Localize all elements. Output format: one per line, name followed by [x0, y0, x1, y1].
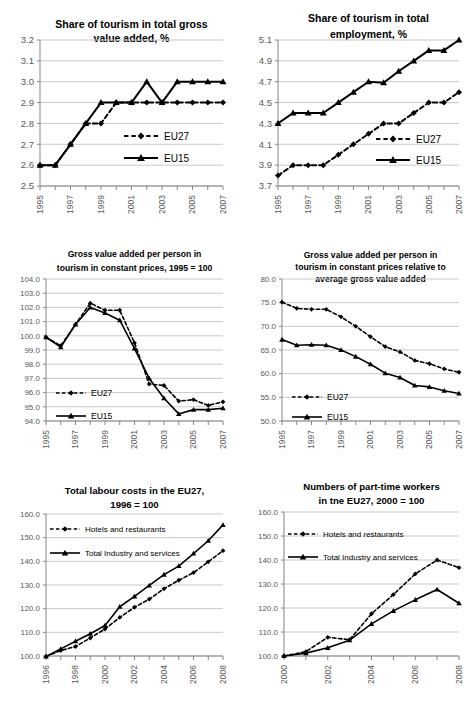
svg-text:4.5: 4.5 [259, 97, 272, 108]
svg-text:2003: 2003 [395, 430, 405, 449]
chart-legend: EU27EU15 [376, 134, 441, 166]
svg-text:2007: 2007 [454, 195, 464, 214]
svg-text:2007: 2007 [218, 430, 228, 449]
svg-text:140.0: 140.0 [258, 556, 279, 565]
svg-text:97.0: 97.0 [24, 374, 40, 383]
svg-text:1995: 1995 [277, 430, 287, 449]
svg-text:2001: 2001 [365, 430, 375, 449]
chart-part-time-workers: Numbers of part-time workersin tne EU27,… [236, 470, 472, 703]
svg-text:70.0: 70.0 [260, 322, 276, 331]
svg-text:160.0: 160.0 [20, 510, 41, 519]
chart-labour-costs: Total labour costs in the EU27,1996 = 10… [0, 470, 236, 703]
svg-text:2006: 2006 [410, 665, 420, 684]
y-axis: 94.095.096.097.098.099.0100.0101.0102.01… [20, 275, 223, 426]
svg-text:Share of tourism in total gros: Share of tourism in total gross [55, 18, 207, 30]
svg-text:2001: 2001 [129, 430, 139, 449]
x-axis: 1995199719992001200320052007 [277, 421, 464, 449]
svg-text:1997: 1997 [65, 195, 75, 214]
svg-text:2000: 2000 [279, 665, 289, 684]
svg-text:98.0: 98.0 [24, 360, 40, 369]
svg-text:2007: 2007 [454, 430, 464, 449]
chart-title: Gross value added per person intourism i… [57, 249, 213, 273]
svg-text:130.0: 130.0 [20, 581, 41, 590]
svg-text:tourism in constant prices rel: tourism in constant prices relative to [295, 262, 445, 272]
svg-text:2002: 2002 [129, 665, 139, 684]
svg-text:95.0: 95.0 [24, 403, 40, 412]
svg-text:3.1: 3.1 [21, 55, 34, 66]
svg-text:2001: 2001 [363, 195, 373, 214]
svg-text:100.0: 100.0 [20, 652, 41, 661]
x-axis: 1996199820002002200420062008 [41, 656, 228, 684]
chart-legend: Hotels and restaurantsTotal Industry and… [288, 530, 418, 562]
svg-text:101.0: 101.0 [20, 317, 41, 326]
chart-panel-share-gva: Share of tourism in total grossvalue add… [0, 0, 236, 235]
legend-label: Total Industry and services [323, 553, 418, 562]
chart-panel-gva-per-person: Gross value added per person intourism i… [0, 235, 236, 470]
svg-text:99.0: 99.0 [24, 346, 40, 355]
svg-text:3.2: 3.2 [21, 34, 34, 45]
chart-legend: EU27EU15 [292, 392, 349, 422]
svg-text:100.0: 100.0 [258, 652, 279, 661]
svg-text:Share of tourism in total: Share of tourism in total [308, 12, 429, 24]
x-axis: 20002002200420062008 [279, 656, 464, 684]
chart-legend: EU27EU15 [124, 131, 189, 164]
svg-text:1995: 1995 [41, 430, 51, 449]
svg-text:130.0: 130.0 [258, 580, 279, 589]
chart-title: Numbers of part-time workersin tne EU27,… [303, 481, 439, 506]
svg-text:150.0: 150.0 [20, 533, 41, 542]
svg-text:1995: 1995 [273, 195, 283, 214]
svg-text:3.9: 3.9 [259, 159, 272, 170]
svg-text:2007: 2007 [218, 195, 228, 214]
figure-grid: Share of tourism in total grossvalue add… [0, 0, 472, 703]
chart-gva-relative: Gross value added per person intourism i… [236, 235, 472, 470]
chart-panel-gva-relative: Gross value added per person intourism i… [236, 235, 472, 470]
svg-text:Gross value added per person i: Gross value added per person in [68, 249, 202, 259]
svg-text:1999: 1999 [333, 195, 343, 214]
legend-label: Hotels and restaurants [85, 525, 166, 534]
svg-text:50.0: 50.0 [260, 417, 276, 426]
svg-text:2002: 2002 [323, 665, 333, 684]
legend-label: EU27 [164, 131, 189, 142]
svg-text:2001: 2001 [126, 195, 136, 214]
svg-text:2008: 2008 [218, 665, 228, 684]
svg-text:4.7: 4.7 [259, 76, 272, 87]
x-axis: 1995199719992001200320052007 [273, 186, 464, 214]
svg-text:110.0: 110.0 [259, 628, 279, 637]
chart-title: Total labour costs in the EU27,1996 = 10… [65, 485, 205, 510]
svg-text:104.0: 104.0 [20, 275, 41, 284]
legend-label: EU15 [327, 412, 349, 422]
svg-text:tourism in constant prices, 19: tourism in constant prices, 1995 = 100 [57, 263, 213, 273]
svg-text:4.9: 4.9 [259, 55, 272, 66]
series-total-industry-and-services [43, 522, 226, 658]
series-total-industry-and-services [281, 587, 462, 658]
svg-text:120.0: 120.0 [20, 604, 41, 613]
svg-text:2005: 2005 [188, 430, 198, 449]
svg-text:2000: 2000 [100, 665, 110, 684]
chart-panel-labour-costs: Total labour costs in the EU27,1996 = 10… [0, 470, 236, 703]
svg-text:120.0: 120.0 [258, 604, 279, 613]
svg-text:Total labour costs in the EU27: Total labour costs in the EU27, [65, 485, 205, 496]
svg-text:5.1: 5.1 [259, 34, 272, 45]
legend-label: Total Industry and services [85, 549, 180, 558]
svg-text:1999: 1999 [336, 430, 346, 449]
svg-text:1999: 1999 [100, 430, 110, 449]
svg-text:Gross value added per person i: Gross value added per person in [304, 250, 438, 260]
y-axis: 2.52.62.72.82.93.03.13.2 [21, 34, 223, 191]
svg-text:2.9: 2.9 [21, 97, 34, 108]
svg-text:2.6: 2.6 [21, 159, 34, 170]
svg-text:96.0: 96.0 [24, 388, 40, 397]
svg-text:2.8: 2.8 [21, 118, 34, 129]
svg-text:2004: 2004 [366, 665, 376, 684]
svg-text:2005: 2005 [187, 195, 197, 214]
chart-gva-per-person: Gross value added per person intourism i… [0, 235, 236, 470]
svg-text:150.0: 150.0 [258, 532, 279, 541]
svg-text:3.0: 3.0 [21, 76, 34, 87]
chart-legend: Hotels and restaurantsTotal Industry and… [50, 525, 180, 558]
chart-panel-part-time-workers: Numbers of part-time workersin tne EU27,… [236, 470, 472, 703]
svg-text:2003: 2003 [157, 195, 167, 214]
svg-text:2.7: 2.7 [21, 139, 34, 150]
svg-text:60.0: 60.0 [260, 369, 276, 378]
x-axis: 1995199719992001200320052007 [41, 421, 228, 449]
legend-label: EU15 [91, 411, 113, 421]
svg-text:2006: 2006 [188, 665, 198, 684]
